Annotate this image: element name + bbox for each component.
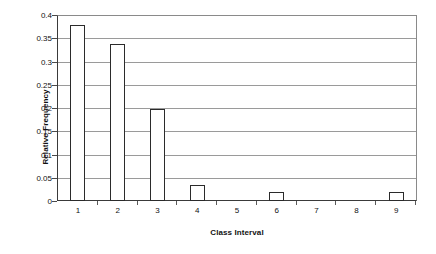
y-axis-tick-labels: 00.050.10.150.20.250.30.350.4 <box>22 15 52 201</box>
y-axis-tick-mark <box>52 201 57 202</box>
y-axis-tick-mark <box>52 62 57 63</box>
y-axis-tick-label: 0.2 <box>41 104 52 113</box>
y-axis-tick-mark <box>52 155 57 156</box>
y-axis-tick-label: 0.05 <box>36 173 52 182</box>
y-axis-tick-mark <box>52 38 57 39</box>
x-axis-tick-labels: 123456789 <box>58 206 416 215</box>
y-axis-tick-label: 0.25 <box>36 80 52 89</box>
bar-slot <box>177 16 217 201</box>
x-axis-title: Class Interval <box>57 228 417 237</box>
bar-slot <box>98 16 138 201</box>
bar-slot <box>376 16 416 201</box>
y-axis-tick-label: 0.35 <box>36 34 52 43</box>
y-axis-tick-label: 0.15 <box>36 127 52 136</box>
bar[interactable] <box>389 192 404 201</box>
x-axis-tick-label: 5 <box>217 206 257 215</box>
bar-slot <box>297 16 337 201</box>
bars-layer <box>58 16 416 201</box>
y-axis-tick-mark <box>52 131 57 132</box>
bar-slot <box>336 16 376 201</box>
bar[interactable] <box>110 44 125 201</box>
y-axis-tick-label: 0.4 <box>41 11 52 20</box>
x-axis-tick-label: 3 <box>138 206 178 215</box>
x-axis-tick-label: 4 <box>177 206 217 215</box>
bar[interactable] <box>190 185 205 201</box>
x-axis-tick-label: 7 <box>297 206 337 215</box>
bar-slot <box>138 16 178 201</box>
y-axis-tick-label: 0.3 <box>41 57 52 66</box>
bar[interactable] <box>70 25 85 201</box>
bar[interactable] <box>150 109 165 202</box>
x-axis-tick-label: 2 <box>98 206 138 215</box>
x-axis-tick-label: 9 <box>376 206 416 215</box>
y-axis-tick-mark <box>52 85 57 86</box>
y-axis-tick-mark <box>52 178 57 179</box>
bar-slot <box>58 16 98 201</box>
bar-slot <box>217 16 257 201</box>
relative-frequency-histogram: Relative Frequency 00.050.10.150.20.250.… <box>0 0 436 254</box>
x-axis-tick-label: 1 <box>58 206 98 215</box>
x-axis-tick-label: 6 <box>257 206 297 215</box>
bar-slot <box>257 16 297 201</box>
x-axis-tick-label: 8 <box>336 206 376 215</box>
y-axis-tick-mark <box>52 15 57 16</box>
y-axis-tick-label: 0.1 <box>41 150 52 159</box>
y-axis-tick-mark <box>52 108 57 109</box>
bar[interactable] <box>269 192 284 201</box>
